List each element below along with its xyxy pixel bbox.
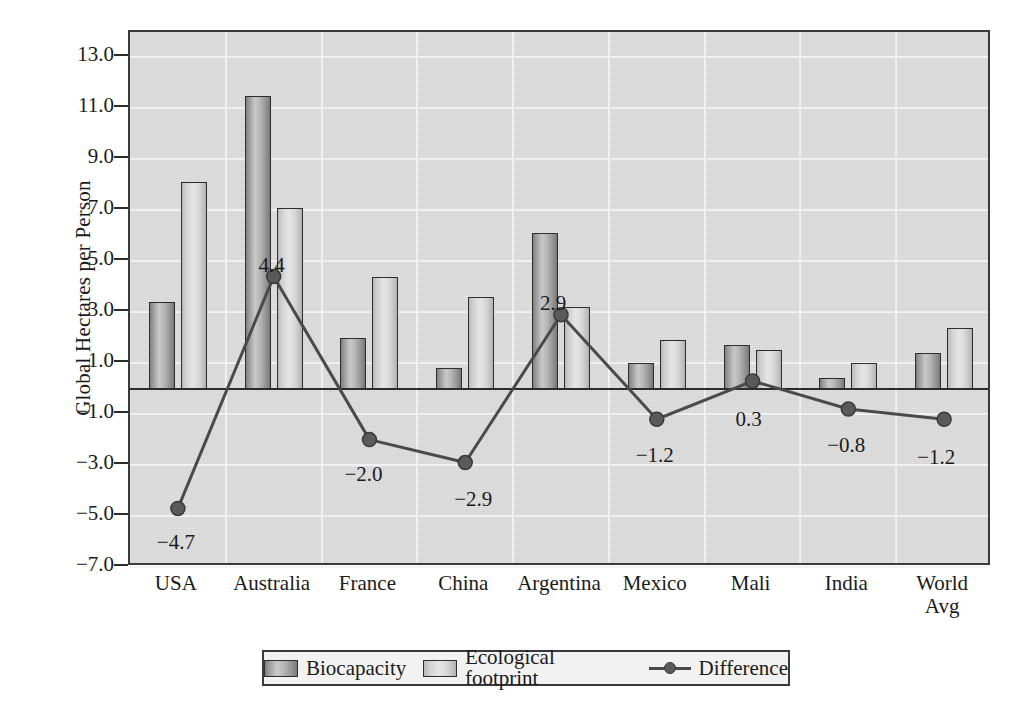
legend-item[interactable]: Ecological footprint (423, 647, 631, 689)
legend-label: Biocapacity (306, 658, 406, 679)
legend-swatch-biocapacity-icon (264, 660, 298, 677)
legend-dot-icon (664, 662, 676, 674)
chart-legend: BiocapacityEcological footprintDifferenc… (262, 650, 790, 686)
legend-swatch-footprint-icon (423, 660, 457, 677)
x-axis-category-label: China (438, 572, 488, 595)
x-axis-category-label: Argentina (517, 572, 601, 595)
legend-label: Difference (699, 658, 788, 679)
x-axis-category-label: World Avg (916, 572, 968, 618)
x-axis-category-label: Mexico (623, 572, 687, 595)
chart-figure: Global Hectares per Person 13.011.09.07.… (0, 0, 1013, 710)
x-axis-category-labels: USAAustraliaFranceChinaArgentinaMexicoMa… (0, 0, 1013, 710)
x-axis-category-label: France (339, 572, 396, 595)
x-axis-category-label: USA (155, 572, 197, 595)
legend-label: Ecological footprint (465, 647, 632, 689)
x-axis-category-label: Australia (233, 572, 310, 595)
x-axis-category-label: Mali (731, 572, 771, 595)
legend-item[interactable]: Biocapacity (264, 658, 406, 679)
legend-item[interactable]: Difference (649, 658, 788, 679)
legend-line-marker-icon (649, 662, 691, 674)
x-axis-category-label: India (825, 572, 868, 595)
